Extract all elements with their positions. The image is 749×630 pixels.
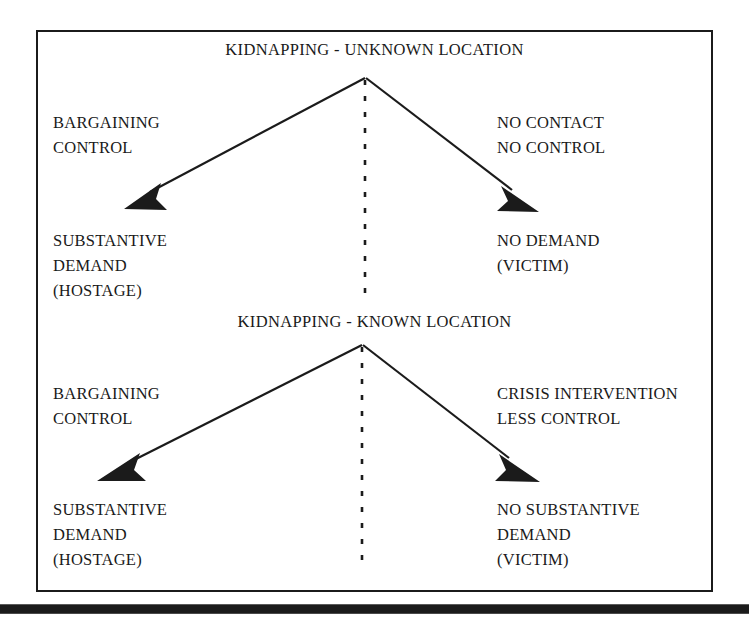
outcome-line: DEMAND	[53, 253, 167, 278]
condition-line: CONTROL	[53, 135, 160, 160]
outcome-line: NO DEMAND	[497, 228, 600, 253]
outcome-label-right-unknown: NO DEMAND (VICTIM)	[497, 228, 600, 278]
panel-title-known-location: KIDNAPPING - KNOWN LOCATION	[36, 312, 713, 332]
condition-line: NO CONTACT	[497, 110, 605, 135]
outcome-line: DEMAND	[497, 522, 640, 547]
condition-label-right-unknown: NO CONTACT NO CONTROL	[497, 110, 605, 160]
outcome-line: NO SUBSTANTIVE	[497, 497, 640, 522]
outcome-line: (VICTIM)	[497, 547, 640, 572]
condition-label-right-known: CRISIS INTERVENTION LESS CONTROL	[497, 381, 678, 431]
bottom-horizontal-rule	[0, 604, 749, 614]
outcome-line: SUBSTANTIVE	[53, 497, 167, 522]
outcome-label-left-known: SUBSTANTIVE DEMAND (HOSTAGE)	[53, 497, 167, 572]
condition-line: CRISIS INTERVENTION	[497, 381, 678, 406]
condition-label-left-unknown: BARGAINING CONTROL	[53, 110, 160, 160]
condition-line: BARGAINING	[53, 381, 160, 406]
outcome-line: (VICTIM)	[497, 253, 600, 278]
outcome-line: (HOSTAGE)	[53, 547, 167, 572]
condition-line: LESS CONTROL	[497, 406, 678, 431]
outcome-line: DEMAND	[53, 522, 167, 547]
panel-title-unknown-location: KIDNAPPING - UNKNOWN LOCATION	[36, 40, 713, 60]
outcome-label-right-known: NO SUBSTANTIVE DEMAND (VICTIM)	[497, 497, 640, 572]
outcome-line: SUBSTANTIVE	[53, 228, 167, 253]
condition-line: BARGAINING	[53, 110, 160, 135]
condition-line: NO CONTROL	[497, 135, 605, 160]
condition-line: CONTROL	[53, 406, 160, 431]
condition-label-left-known: BARGAINING CONTROL	[53, 381, 160, 431]
outcome-label-left-unknown: SUBSTANTIVE DEMAND (HOSTAGE)	[53, 228, 167, 303]
outcome-line: (HOSTAGE)	[53, 278, 167, 303]
